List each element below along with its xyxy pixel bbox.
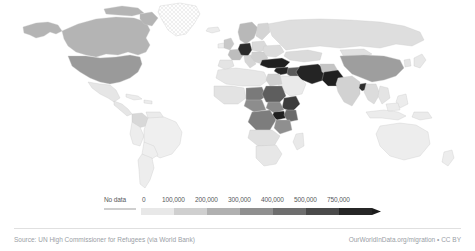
country-india xyxy=(336,76,360,106)
country-egypt xyxy=(266,74,282,86)
country-greenland-no-data xyxy=(158,3,200,36)
legend-no-data-label: No data xyxy=(104,196,126,203)
country-cuba xyxy=(126,94,142,100)
map-countries xyxy=(23,3,454,188)
legend-tick-200000: 200,000 xyxy=(195,196,218,203)
country-united-states xyxy=(68,55,142,84)
country-alaska xyxy=(23,22,62,38)
legend-bin-300k-400k xyxy=(240,208,273,215)
country-central-america xyxy=(114,101,132,116)
country-papua-new-guinea xyxy=(412,112,432,120)
country-ethiopia xyxy=(282,96,300,112)
country-australia xyxy=(376,123,430,160)
legend-bin-100k-200k xyxy=(174,208,207,215)
legend-bin-500k-750k xyxy=(306,208,339,215)
country-west-africa xyxy=(214,86,246,104)
country-morocco-algeria-libya xyxy=(216,68,268,86)
world-map-svg xyxy=(0,0,475,195)
country-argentina-chile xyxy=(138,154,154,188)
legend-tick-100000: 100,000 xyxy=(162,196,185,203)
legend-tick-500000: 500,000 xyxy=(294,196,317,203)
country-russia xyxy=(268,19,424,50)
country-indonesia xyxy=(366,110,406,120)
legend-tick-labels: No data 0 100,000 200,000 300,000 400,00… xyxy=(104,196,372,207)
legend-color-scale xyxy=(104,208,372,215)
country-iceland xyxy=(206,27,220,33)
country-kazakhstan xyxy=(284,50,322,62)
country-dr-congo xyxy=(248,110,276,130)
legend-no-data-swatch xyxy=(104,208,136,210)
chart-footer: Source: UN High Commissioner for Refugee… xyxy=(0,228,475,251)
country-madagascar xyxy=(293,133,304,150)
country-myanmar-thailand xyxy=(364,84,380,104)
country-ireland xyxy=(218,43,224,48)
country-finland xyxy=(256,23,270,40)
choropleth-map xyxy=(0,0,475,195)
legend-bin-200k-300k xyxy=(207,208,240,215)
country-united-kingdom xyxy=(224,38,234,50)
source-note: Source: UN High Commissioner for Refugee… xyxy=(14,236,195,243)
country-korea xyxy=(404,59,411,67)
country-mexico xyxy=(88,82,120,102)
legend-tick-400000: 400,000 xyxy=(261,196,284,203)
legend-bin-400k-500k xyxy=(273,208,306,215)
legend-bin-0-100k xyxy=(141,208,174,215)
attribution-note[interactable]: OurWorldInData.org/migration • CC BY xyxy=(349,236,461,243)
country-norway-sweden xyxy=(238,22,258,44)
country-vietnam xyxy=(378,86,390,104)
legend-tick-0: 0 xyxy=(142,196,146,203)
country-borneo xyxy=(386,103,400,111)
country-canada-arctic xyxy=(104,6,144,16)
legend-bin-750k-plus xyxy=(339,208,372,215)
map-legend: No data 0 100,000 200,000 300,000 400,00… xyxy=(0,196,475,226)
legend-tick-750000: 750,000 xyxy=(327,196,350,203)
country-tanzania xyxy=(274,120,292,134)
country-hispaniola xyxy=(144,100,152,104)
country-sudan xyxy=(262,86,286,104)
country-japan xyxy=(414,54,426,68)
country-angola-zambia xyxy=(248,130,280,146)
country-new-zealand xyxy=(442,150,454,166)
legend-gradient-bar xyxy=(141,208,372,215)
country-canada xyxy=(62,17,150,57)
country-southern-africa xyxy=(256,145,282,166)
legend-tick-300000: 300,000 xyxy=(228,196,251,203)
legend-arrow-end-icon xyxy=(372,208,381,215)
country-ukraine xyxy=(263,45,284,57)
country-cameroon-car xyxy=(244,100,266,112)
